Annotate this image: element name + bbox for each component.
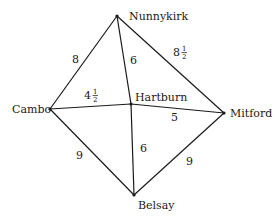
- edge-weight-label: 8: [72, 53, 79, 66]
- edge-cambo-hartburn: [50, 104, 131, 109]
- node-nunnykirk: [115, 14, 118, 17]
- labels-layer: 868124125969NunnykirkCamboHartburnMitfor…: [12, 10, 272, 212]
- node-label-nunnykirk: Nunnykirk: [129, 10, 189, 23]
- node-label-hartburn: Hartburn: [135, 91, 187, 104]
- fraction-numerator: 1: [182, 45, 186, 53]
- node-label-cambo: Cambo: [12, 103, 51, 116]
- node-mitford: [222, 111, 225, 114]
- edge-weight-label: 6: [140, 142, 147, 155]
- edge-mitford-belsay: [134, 113, 224, 195]
- edge-weight-label: 9: [76, 149, 83, 162]
- edge-weight-label: 6: [130, 54, 137, 67]
- edges-layer: [50, 16, 224, 195]
- fraction-denominator: 2: [93, 96, 97, 104]
- edge-nunnykirk-hartburn: [117, 16, 131, 104]
- node-hartburn: [129, 102, 132, 105]
- node-label-mitford: Mitford: [230, 107, 272, 120]
- nodes-layer: [48, 14, 225, 196]
- edge-cambo-belsay: [50, 109, 134, 195]
- edge-weight-label: 4: [84, 89, 91, 102]
- weighted-graph: 868124125969NunnykirkCamboHartburnMitfor…: [0, 0, 279, 217]
- fraction-numerator: 1: [93, 88, 97, 96]
- edge-hartburn-belsay: [131, 104, 134, 195]
- node-label-belsay: Belsay: [138, 199, 175, 212]
- edge-weight-label: 8: [173, 46, 180, 59]
- edge-weight-label: 9: [186, 155, 193, 168]
- node-belsay: [132, 193, 135, 196]
- network-diagram: 868124125969NunnykirkCamboHartburnMitfor…: [0, 0, 279, 217]
- fraction-denominator: 2: [182, 53, 186, 61]
- edge-weight-label: 5: [171, 111, 178, 124]
